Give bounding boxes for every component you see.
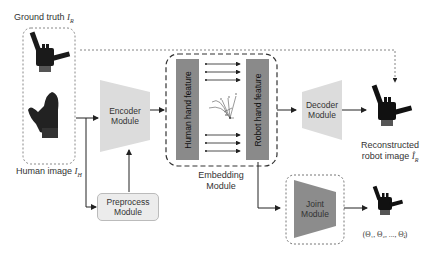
joint-output-robot-hand-icon <box>373 186 403 215</box>
reconstructed-robot-hand-icon <box>372 85 412 126</box>
human-image-text: Human image <box>16 166 75 176</box>
decoder-module: Decoder Module <box>302 100 342 120</box>
robot-hand-feature-label: Robot hand feature <box>253 73 263 146</box>
preprocess-line1: Preprocess <box>98 197 158 207</box>
reconstructed-line2: robot image <box>362 151 412 161</box>
ground-truth-label: Ground truth IR <box>14 12 74 27</box>
reconstructed-image-label: Reconstructed robot image ÎR <box>352 140 428 166</box>
joint-line2: Module <box>294 209 336 219</box>
human-hand-icon <box>28 92 58 138</box>
embedding-trajectory-sketch <box>209 96 236 118</box>
joint-line1: Joint <box>294 199 336 209</box>
human-image-label: Human image IH <box>16 166 82 181</box>
robot-hand-feature-bar: Robot hand feature <box>246 59 269 160</box>
ground-truth-subscript: R <box>70 18 74 24</box>
ground-truth-robot-hand-icon <box>30 32 70 72</box>
joint-angles-label: (Θ₁, Θ₂, ..., Θⱼ) <box>352 229 418 240</box>
diagram-connectors <box>0 0 435 253</box>
reconstructed-line1: Reconstructed <box>352 140 428 151</box>
encoder-line2: Module <box>100 116 150 126</box>
joint-module: Joint Module <box>294 199 336 219</box>
encoder-module: Encoder Module <box>100 106 150 126</box>
ground-truth-text: Ground truth <box>14 12 67 22</box>
embedding-module-label: Embedding Module <box>186 170 256 192</box>
human-hand-feature-bar: Human hand feature <box>176 59 199 160</box>
embedding-line1: Embedding <box>186 170 256 181</box>
human-image-subscript: H <box>78 172 82 178</box>
decoder-line1: Decoder <box>302 100 342 110</box>
preprocess-module: Preprocess Module <box>97 193 159 221</box>
decoder-line2: Module <box>302 110 342 120</box>
preprocess-line2: Module <box>98 207 158 217</box>
reconstructed-subscript: R <box>415 157 419 163</box>
encoder-line1: Encoder <box>100 106 150 116</box>
human-hand-feature-label: Human hand feature <box>183 71 193 149</box>
embedding-line2: Module <box>186 181 256 192</box>
